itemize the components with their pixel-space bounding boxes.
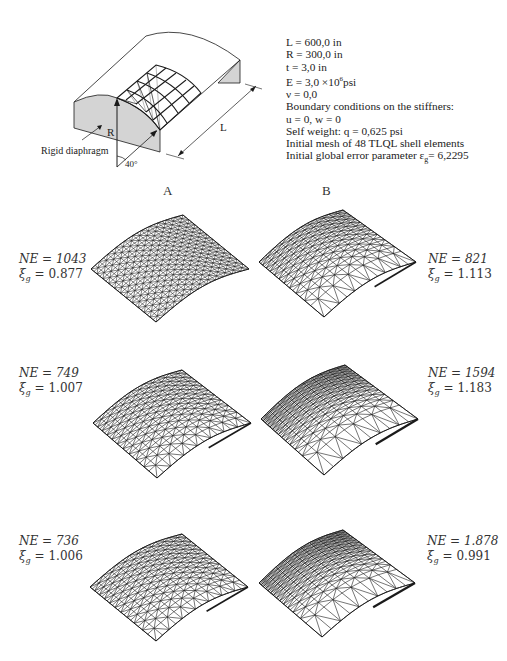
mesh-edges xyxy=(93,370,251,478)
adaptive-mesh-figures xyxy=(0,0,507,661)
mesh-a3 xyxy=(90,534,248,641)
mesh-a1 xyxy=(91,215,249,322)
mesh-edges xyxy=(90,534,248,641)
mesh-b3 xyxy=(259,530,415,637)
mesh-edges xyxy=(259,530,415,637)
mesh-edges xyxy=(91,215,249,322)
mesh-edges xyxy=(261,365,418,475)
mesh-a2 xyxy=(93,370,251,478)
mesh-b2 xyxy=(261,365,418,475)
mesh-b1 xyxy=(259,210,416,317)
mesh-edges xyxy=(259,210,416,317)
